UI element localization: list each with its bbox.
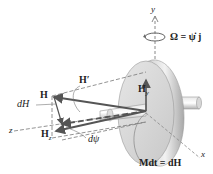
hy-subscript: y bbox=[146, 89, 149, 97]
hy-label: Hy bbox=[138, 84, 149, 97]
moment-label: Mdt = dH bbox=[139, 158, 181, 168]
hz-subscript: z bbox=[49, 134, 52, 142]
hz-text: H bbox=[41, 128, 49, 139]
h-label: H bbox=[40, 90, 48, 100]
z-axis-label: z bbox=[9, 126, 13, 135]
omega-label: Ω = ψ̇ j bbox=[170, 32, 201, 42]
x-axis-label: x bbox=[201, 150, 205, 159]
hy-text: H bbox=[138, 83, 146, 94]
disk-precession-diagram bbox=[0, 0, 213, 174]
dh-label: dH bbox=[17, 99, 29, 109]
hz-label: Hz bbox=[41, 129, 52, 142]
y-axis-label: y bbox=[151, 5, 155, 14]
y-axis bbox=[152, 16, 158, 62]
dh-leader bbox=[36, 104, 56, 105]
rotation-omega-icon bbox=[143, 33, 165, 41]
dh-text: dH bbox=[17, 98, 29, 109]
h-prime-label: H′ bbox=[79, 75, 90, 85]
dpsi-label: dψ bbox=[88, 134, 99, 144]
